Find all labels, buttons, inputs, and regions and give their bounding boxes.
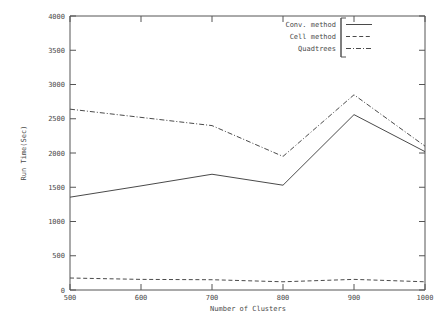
x-tick-label-800: 800 (277, 294, 290, 302)
y-tick-label-2500: 2500 (48, 115, 65, 123)
x-tick-label-600: 600 (135, 294, 148, 302)
y-tick-label-3500: 3500 (48, 47, 65, 55)
y-tick-label-500: 500 (52, 252, 65, 260)
y-tick-label-1500: 1500 (48, 184, 65, 192)
chart-figure: 0 500 1000 1500 2000 2500 3000 3500 4000… (0, 0, 436, 316)
x-tick-label-500: 500 (64, 294, 77, 302)
x-axis-title: Number of Clusters (210, 305, 286, 313)
y-tick-label-1000: 1000 (48, 218, 65, 226)
legend-label-conv-method: Conv. method (285, 21, 336, 29)
y-tick-label-4000: 4000 (48, 13, 65, 21)
y-axis-title: Run Time(Sec) (20, 126, 28, 181)
y-tick-label-2000: 2000 (48, 150, 65, 158)
x-tick-label-900: 900 (348, 294, 361, 302)
y-tick-label-3000: 3000 (48, 81, 65, 89)
x-tick-label-1000: 1000 (417, 294, 434, 302)
line-chart: 0 500 1000 1500 2000 2500 3000 3500 4000… (0, 0, 436, 316)
legend-label-cell-method: Cell method (290, 33, 336, 41)
chart-background (0, 0, 436, 316)
legend-label-quadtrees: Quadtrees (298, 45, 336, 53)
x-tick-label-700: 700 (206, 294, 219, 302)
